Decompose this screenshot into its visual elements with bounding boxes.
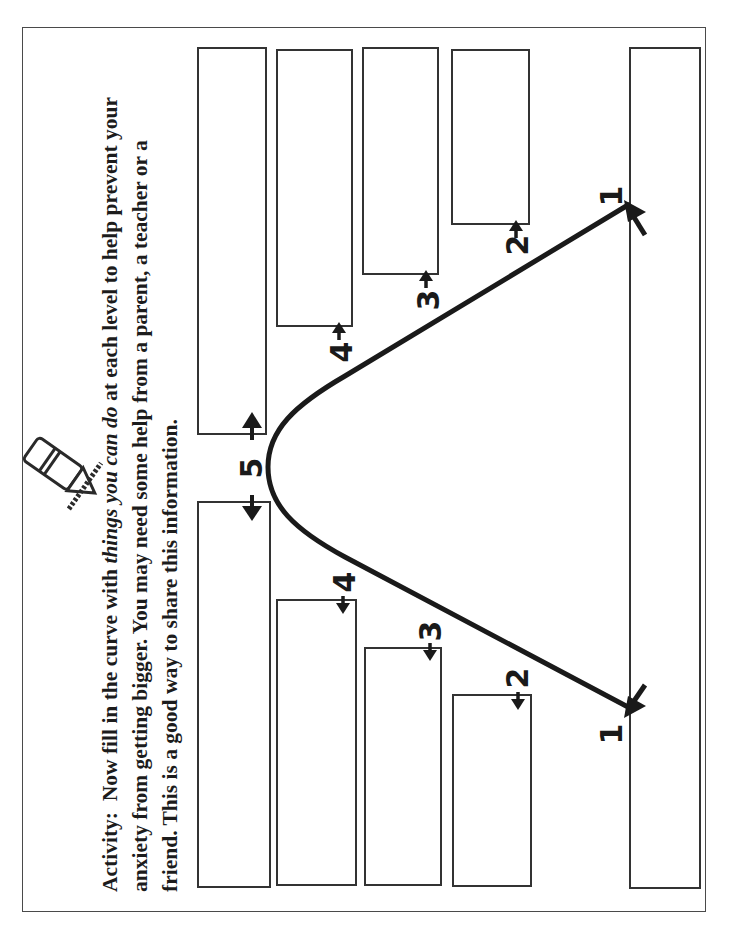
level-3-rise-label: 3	[411, 290, 446, 311]
level-3-fall-label: 3	[413, 621, 448, 642]
answer-box-fall-5[interactable]	[198, 502, 270, 887]
level-1-rise-label: 1	[594, 186, 629, 207]
level-5-label: 5	[234, 458, 269, 479]
level-2-fall-label: 2	[500, 668, 535, 689]
answer-box-fall-4[interactable]	[277, 600, 356, 885]
answer-box-rise-3[interactable]	[363, 48, 438, 274]
level-4-rise-label: 4	[324, 342, 359, 363]
answer-box-rise-5[interactable]	[198, 48, 266, 434]
level-4-fall-label: 4	[327, 572, 362, 593]
answer-box-rise-4[interactable]	[277, 50, 352, 326]
answer-box-fall-3[interactable]	[365, 648, 441, 885]
pencil-icon	[15, 425, 111, 516]
level-1-fall-label: 1	[594, 724, 629, 745]
answer-box-level-1[interactable]	[630, 48, 700, 888]
anxiety-curve-diagram: 5 4 3 2 4 3 2 1 1	[0, 0, 735, 937]
answer-box-rise-2[interactable]	[452, 50, 529, 224]
answer-box-fall-2[interactable]	[453, 695, 531, 886]
level-2-rise-label: 2	[500, 235, 535, 256]
